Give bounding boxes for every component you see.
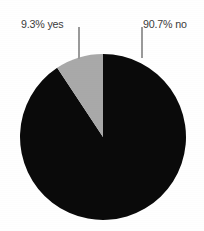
leader-line-yes [78, 27, 80, 59]
pie-chart: 9.3% yes 90.7% no [0, 0, 204, 231]
pie-slice-no [20, 54, 186, 220]
leader-line-no [141, 27, 143, 58]
pie-chart-canvas [0, 0, 204, 231]
pie-label-yes: 9.3% yes [21, 18, 64, 31]
pie-label-no: 90.7% no [143, 18, 187, 31]
